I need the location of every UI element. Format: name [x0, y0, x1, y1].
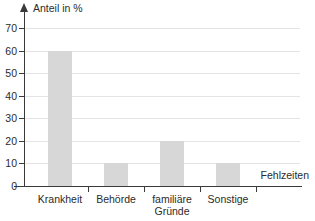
y-axis-tick	[19, 163, 25, 164]
bar-chart: Anteil in % Fehlzeiten 010203040506070Kr…	[0, 0, 315, 221]
gridline	[24, 28, 300, 29]
x-axis-tick	[88, 187, 89, 192]
bar	[160, 141, 184, 186]
y-axis-tick	[19, 73, 25, 74]
x-axis-label-line: Krankheit	[38, 193, 82, 205]
y-axis-tick	[19, 118, 25, 119]
y-axis-tick	[19, 28, 25, 29]
x-axis-label-line: familiäre	[152, 193, 192, 205]
x-axis-tick	[256, 187, 257, 192]
y-axis-tick	[19, 141, 25, 142]
y-axis-label: 60	[0, 46, 17, 57]
x-axis-label-line: Gründe	[138, 205, 206, 217]
y-axis-label: 0	[0, 181, 17, 192]
x-axis-tick	[144, 187, 145, 192]
y-axis-title: Anteil in %	[33, 3, 83, 14]
y-axis-label: 20	[0, 136, 17, 147]
x-axis-label: Sonstige	[194, 193, 262, 205]
y-axis-label: 50	[0, 68, 17, 79]
y-axis-tick	[19, 96, 25, 97]
y-axis-label: 10	[0, 158, 17, 169]
x-axis-line	[14, 186, 302, 187]
y-axis-line	[24, 10, 25, 187]
x-axis-label-line: Sonstige	[208, 193, 249, 205]
y-axis-label: 30	[0, 113, 17, 124]
x-axis-title: Fehlzeiten	[261, 170, 309, 181]
y-axis-label: 70	[0, 23, 17, 34]
x-axis-label-line: Behörde	[96, 193, 136, 205]
y-axis-tick	[19, 186, 25, 187]
bar	[48, 51, 72, 186]
y-axis-tick	[19, 51, 25, 52]
bar	[104, 163, 128, 186]
x-axis-tick	[200, 187, 201, 192]
y-axis-label: 40	[0, 91, 17, 102]
bar	[216, 163, 240, 186]
